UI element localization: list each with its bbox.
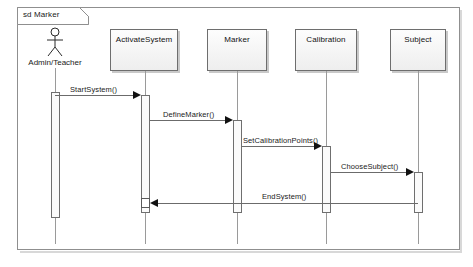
message-line-definemarker (150, 120, 225, 121)
frame-shadow-bottom (20, 251, 461, 253)
participant-label-marker: Marker (224, 35, 250, 44)
message-arrowhead-definemarker (225, 116, 233, 124)
activation-subject (414, 172, 423, 213)
box-shadow-marker (209, 71, 268, 73)
activation-activatesystem-return (141, 198, 150, 208)
box-shadow-activatesystem-right (178, 31, 180, 73)
message-line-endsystem (158, 203, 418, 204)
frame-shadow-right (460, 10, 462, 253)
message-line-startsystem (55, 95, 133, 96)
participant-box-marker[interactable]: Marker (207, 29, 267, 71)
participant-label-calibration: Calibration (306, 35, 345, 44)
message-line-setcalibrationpoints (242, 146, 314, 147)
box-shadow-calibration-right (357, 31, 359, 73)
participant-box-activatesystem[interactable]: ActivateSystem (110, 29, 178, 71)
message-label-endsystem: EndSystem() (262, 192, 306, 201)
activation-admin-teacher (51, 92, 60, 218)
box-shadow-marker-right (267, 31, 269, 73)
stick-figure-actor-icon (43, 27, 67, 57)
actor-admin-teacher[interactable]: Admin/Teacher (35, 27, 75, 67)
frame-label: sd Marker (23, 10, 59, 19)
lifeline-subject (418, 71, 419, 244)
message-line-choosesubject (331, 172, 406, 173)
message-arrowhead-startsystem (133, 91, 141, 99)
message-label-setcalibrationpoints: SetCalibrationPoints() (243, 136, 318, 145)
box-shadow-subject-right (446, 31, 448, 73)
message-arrowhead-endsystem (150, 199, 158, 207)
box-shadow-subject (392, 71, 447, 73)
message-label-startsystem: StartSystem() (70, 85, 117, 94)
activation-marker (233, 120, 242, 213)
message-arrowhead-choosesubject (406, 168, 414, 176)
box-shadow-calibration (297, 71, 358, 73)
participant-box-calibration[interactable]: Calibration (295, 29, 357, 71)
activation-activatesystem (141, 95, 150, 213)
message-label-definemarker: DefineMarker() (163, 110, 214, 119)
message-label-choosesubject: ChooseSubject() (341, 162, 398, 171)
frame-name-tag: sd Marker (17, 7, 89, 24)
sequence-diagram-canvas: sd Marker Admin/Teacher ActivateSystem M… (0, 0, 473, 267)
participant-box-subject[interactable]: Subject (390, 29, 446, 71)
participant-label-activatesystem: ActivateSystem (116, 35, 173, 44)
participant-label-subject: Subject (404, 35, 431, 44)
actor-label: Admin/Teacher (21, 58, 89, 67)
